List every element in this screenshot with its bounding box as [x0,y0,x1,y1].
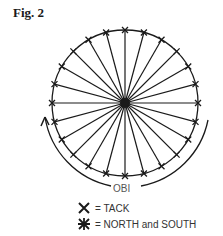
tack-mark-icon [86,37,92,43]
asterisk-star-icon [76,217,92,231]
tack-mark-icon [159,37,165,43]
tack-mark-icon [59,64,65,70]
tack-mark-icon [70,152,76,158]
arrowhead-icon [41,117,49,126]
tack-mark-icon [70,48,76,54]
legend-item-tack: = TACK [76,200,196,216]
tack-mark-icon [59,137,65,143]
tack-mark-icon [185,64,191,70]
center-hub [120,98,130,108]
legend-item-north-south: = NORTH and SOUTH [76,216,196,232]
tack-mark-icon [174,152,180,158]
legend-label: = NORTH and SOUTH [95,219,196,230]
obi-label: OBI [113,183,130,194]
tack-mark-icon [185,137,191,143]
x-mark-icon [76,201,92,215]
legend-label: = TACK [95,203,129,214]
tack-mark-icon [86,163,92,169]
tack-mark-icon [159,163,165,169]
legend: = TACK = NORTH and SOUTH [76,200,196,232]
tack-mark-icon [174,48,180,54]
